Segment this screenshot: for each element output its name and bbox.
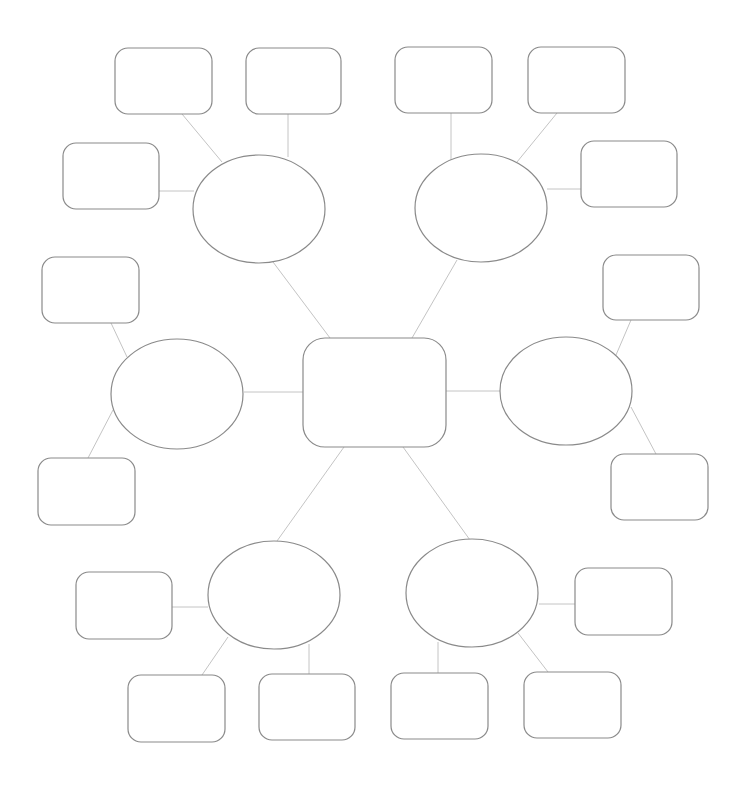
leaf-box[interactable] [259,674,355,740]
leaf-node-l13[interactable] [259,674,355,740]
leaf-node-l3[interactable] [63,143,159,209]
connector-b-right-to-l9 [616,320,631,355]
leaf-node-l2[interactable] [246,48,341,114]
branch-ellipse[interactable] [208,541,340,649]
leaf-box[interactable] [76,572,172,639]
connector-b-top-right-to-l5 [517,113,557,162]
leaf-box[interactable] [42,257,139,323]
connector-center-to-b-top-left [273,262,330,338]
branch-ellipse[interactable] [415,154,547,262]
leaf-box[interactable] [391,673,488,739]
central-topic-box[interactable] [303,338,446,447]
leaf-box[interactable] [603,255,699,320]
branch-node-b-bottom-left[interactable] [208,541,340,649]
connector-center-to-b-bottom-right [403,447,470,540]
leaf-box[interactable] [115,48,212,114]
leaf-box[interactable] [63,143,159,209]
leaf-box[interactable] [611,454,708,520]
leaf-box[interactable] [524,672,621,738]
connector-b-bottom-left-to-l12 [202,637,228,675]
leaf-box[interactable] [38,458,135,525]
branch-node-b-top-left[interactable] [193,155,325,263]
connector-b-left-to-l8 [88,410,113,458]
leaf-box[interactable] [528,47,625,113]
leaf-node-l7[interactable] [42,257,139,323]
leaf-box[interactable] [395,47,492,113]
central-topic-node[interactable] [303,338,446,447]
leaf-node-l9[interactable] [603,255,699,320]
leaf-node-l11[interactable] [76,572,172,639]
branch-ellipse[interactable] [406,539,538,647]
leaf-node-l6[interactable] [581,141,677,207]
leaf-box[interactable] [581,141,677,207]
leaf-node-l5[interactable] [528,47,625,113]
connector-b-bottom-right-to-l16 [518,633,548,672]
branch-node-b-left[interactable] [111,339,243,449]
leaf-node-l1[interactable] [115,48,212,114]
connector-center-to-b-top-right [412,260,457,338]
mind-map-canvas [0,0,751,789]
leaf-node-l4[interactable] [395,47,492,113]
leaf-box[interactable] [246,48,341,114]
leaf-node-l12[interactable] [128,675,225,742]
connector-b-left-to-l7 [111,323,127,357]
branch-node-b-top-right[interactable] [415,154,547,262]
branch-node-b-bottom-right[interactable] [406,539,538,647]
leaf-node-l14[interactable] [575,568,672,635]
node-layer [38,47,708,742]
branch-ellipse[interactable] [193,155,325,263]
branch-node-b-right[interactable] [500,337,632,445]
connector-center-to-b-bottom-left [277,447,344,541]
leaf-node-l10[interactable] [611,454,708,520]
branch-ellipse[interactable] [111,339,243,449]
branch-ellipse[interactable] [500,337,632,445]
connector-b-top-left-to-l1 [182,114,222,162]
leaf-box[interactable] [575,568,672,635]
connector-b-right-to-l10 [631,407,656,454]
leaf-node-l8[interactable] [38,458,135,525]
leaf-box[interactable] [128,675,225,742]
leaf-node-l15[interactable] [391,673,488,739]
leaf-node-l16[interactable] [524,672,621,738]
